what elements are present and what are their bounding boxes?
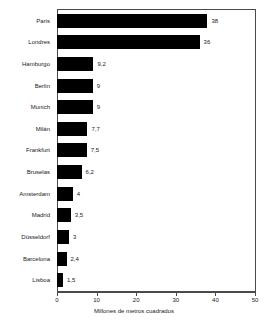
- x-axis-tick-label: 40: [212, 297, 219, 303]
- x-axis-tick-label: 10: [93, 297, 100, 303]
- bar-row: 3: [57, 226, 255, 248]
- bar-row: 9,2: [57, 53, 255, 75]
- bar-row: 9: [57, 75, 255, 97]
- x-axis-tick: [57, 292, 58, 296]
- bar: [57, 273, 63, 287]
- bar: [57, 35, 200, 49]
- bar-row: 9: [57, 96, 255, 118]
- x-axis-tick: [97, 292, 98, 296]
- bar-row: 7,7: [57, 118, 255, 140]
- category-label: Madrid: [0, 204, 54, 226]
- category-label: Frankfurt: [0, 140, 54, 162]
- x-axis-tick: [215, 292, 216, 296]
- bar-row: 4: [57, 183, 255, 205]
- category-label: Paris: [0, 10, 54, 32]
- category-label: Düsseldorf: [0, 226, 54, 248]
- bar-row: 38: [57, 10, 255, 32]
- bar-value-label: 9: [97, 83, 100, 89]
- bar: [57, 79, 93, 93]
- bar-chart: ParisLondresHamburgoBerlinMunichMilánFra…: [0, 0, 268, 327]
- bar-value-label: 7,7: [91, 126, 99, 132]
- x-axis-tick-label: 0: [55, 297, 58, 303]
- category-label: Milán: [0, 118, 54, 140]
- x-axis-tick: [255, 292, 256, 296]
- category-label: Lisboa: [0, 269, 54, 291]
- category-label: Bruselas: [0, 161, 54, 183]
- bar: [57, 230, 69, 244]
- bar: [57, 57, 93, 71]
- category-axis-labels: ParisLondresHamburgoBerlinMunichMilánFra…: [0, 10, 54, 291]
- bar: [57, 208, 71, 222]
- bar-value-label: 2,4: [71, 256, 79, 262]
- category-label: Amsterdam: [0, 183, 54, 205]
- bar-row: 36: [57, 32, 255, 54]
- bar: [57, 14, 207, 28]
- bars-container: 38369,2997,77,56,243,532,41,5: [57, 10, 255, 291]
- x-axis-title: Millones de metros cuadrados: [0, 308, 268, 314]
- bar: [57, 165, 82, 179]
- bar-row: 1,5: [57, 269, 255, 291]
- category-label: Barcelona: [0, 248, 54, 270]
- bar-value-label: 6,2: [86, 169, 94, 175]
- x-axis-tick-label: 30: [172, 297, 179, 303]
- bar: [57, 143, 87, 157]
- bar: [57, 122, 87, 136]
- bar-value-label: 7,5: [91, 147, 99, 153]
- category-label: Londres: [0, 32, 54, 54]
- bar-value-label: 38: [211, 18, 218, 24]
- bar-value-label: 1,5: [67, 277, 75, 283]
- bar-row: 2,4: [57, 248, 255, 270]
- bar-value-label: 9,2: [97, 61, 105, 67]
- bar: [57, 252, 67, 266]
- bar-row: 6,2: [57, 161, 255, 183]
- bar: [57, 187, 73, 201]
- x-axis-tick-label: 50: [252, 297, 259, 303]
- category-label: Hamburgo: [0, 53, 54, 75]
- bar-value-label: 9: [97, 104, 100, 110]
- x-axis-tick-label: 20: [133, 297, 140, 303]
- bar-row: 7,5: [57, 140, 255, 162]
- x-axis-line: [57, 292, 256, 293]
- x-axis-tick: [176, 292, 177, 296]
- bar-value-label: 3,5: [75, 212, 83, 218]
- category-label: Berlin: [0, 75, 54, 97]
- bar-value-label: 36: [204, 39, 211, 45]
- bar-row: 3,5: [57, 204, 255, 226]
- x-axis-tick: [136, 292, 137, 296]
- category-label: Munich: [0, 96, 54, 118]
- bar: [57, 100, 93, 114]
- bar-value-label: 4: [77, 191, 80, 197]
- bar-value-label: 3: [73, 234, 76, 240]
